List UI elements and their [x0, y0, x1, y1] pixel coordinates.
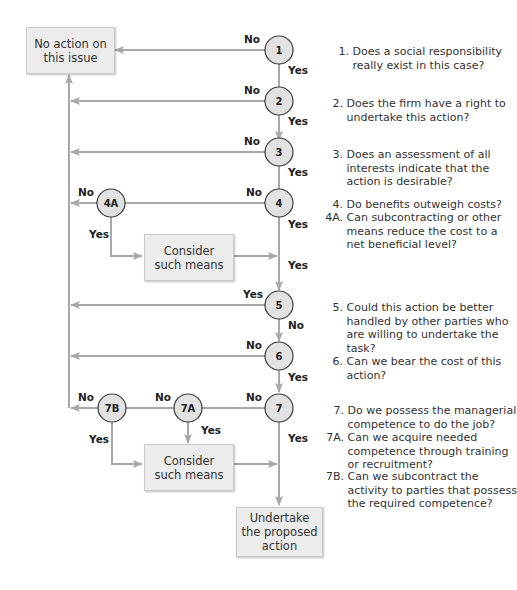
label-6-yes: Yes [288, 371, 308, 383]
node-5-label: 5 [265, 291, 293, 319]
question-4a: 4A. Can subcontracting or other means re… [318, 211, 501, 252]
question-1: 1. Does a social responsibility really e… [331, 45, 502, 72]
label-7-yes: Yes [288, 432, 308, 444]
question-4: 4. Do benefits outweigh costs? [325, 198, 502, 212]
consider-means-box-2: Consider such means [144, 444, 234, 491]
label-5-yes: Yes [243, 288, 263, 300]
undertake-action-box: Undertake the proposed action [236, 507, 323, 557]
node-7-label: 7 [265, 394, 293, 422]
label-4a-no: No [78, 186, 94, 198]
label-2-no: No [244, 84, 260, 96]
node-3-label: 3 [265, 138, 293, 166]
consider-means-box-1: Consider such means [144, 234, 234, 281]
question-5: 5. Could this action be better handled b… [325, 301, 509, 355]
label-consider1-yes: Yes [288, 259, 308, 271]
label-1-no: No [244, 33, 260, 45]
question-6: 6. Can we bear the cost of this action? [325, 355, 501, 382]
label-3-no: No [244, 135, 260, 147]
node-7b-label: 7B [98, 394, 126, 422]
label-5-no: No [288, 319, 304, 331]
question-7a: 7A. Can we acquire needed competence thr… [319, 431, 508, 472]
question-7: 7. Do we possess the managerial competen… [326, 404, 516, 431]
label-4-no: No [246, 186, 262, 198]
no-action-box: No action on this issue [26, 27, 115, 74]
node-1-label: 1 [265, 36, 293, 64]
label-6-no: No [246, 339, 262, 351]
node-7a-label: 7A [174, 394, 202, 422]
label-1-yes: Yes [288, 64, 308, 76]
question-2: 2. Does the firm have a right to underta… [325, 97, 506, 124]
label-7a-yes: Yes [201, 424, 221, 436]
edge-7b-yes [112, 422, 142, 464]
edge-4a-yes [111, 217, 142, 256]
node-4a-label: 4A [97, 189, 125, 217]
label-3-yes: Yes [288, 166, 308, 178]
node-4-label: 4 [265, 189, 293, 217]
label-7b-no: No [78, 391, 94, 403]
question-3: 3. Does an assessment of all interests i… [325, 148, 491, 189]
label-7b-yes: Yes [89, 433, 109, 445]
node-2-label: 2 [265, 87, 293, 115]
label-7a-no: No [155, 391, 171, 403]
question-7b: 7B. Can we subcontract the activity to p… [319, 470, 517, 511]
label-7-no: No [246, 391, 262, 403]
node-6-label: 6 [265, 342, 293, 370]
label-4-yes: Yes [288, 218, 308, 230]
label-2-yes: Yes [288, 115, 308, 127]
label-4a-yes: Yes [89, 228, 109, 240]
